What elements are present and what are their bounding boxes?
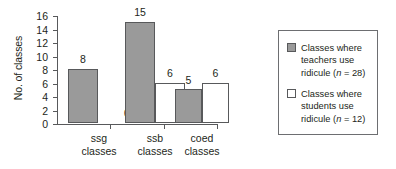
legend-label-teachers-line1: Classes where [301,43,362,53]
y-tick-12: 12 [53,43,57,44]
value-label-coed-students: 6 [213,68,219,79]
x-category-label-ssb-line2: classes [137,145,172,158]
legend-label-students: Classes where students use ridicule (n =… [301,88,365,125]
y-tick-label-10: 10 [36,51,48,62]
bar-ssb-teachers [125,22,155,123]
legend-label-students-line3-post: = 12) [341,114,365,124]
plot-area: 0 2 4 6 8 10 12 14 16 8 [57,16,218,124]
y-tick-label-8: 8 [42,65,48,76]
value-label-coed-teachers: 5 [186,75,192,86]
x-category-label-ssb: ssb classes [137,132,172,158]
legend-label-teachers-line3-pre: ridicule ( [301,68,336,78]
y-tick-16: 16 [53,16,57,17]
y-tick-label-6: 6 [42,78,48,89]
y-tick-label-16: 16 [36,11,48,22]
y-tick-14: 14 [53,30,57,31]
y-tick-label-4: 4 [42,92,48,103]
legend-swatch-students-icon [287,89,296,98]
bar-ssg-teachers [68,69,98,123]
legend-item-students: Classes where students use ridicule (n =… [287,88,375,125]
value-label-ssb-teachers: 15 [134,7,146,18]
y-tick-label-14: 14 [36,24,48,35]
legend: Classes where teachers use ridicule (n =… [278,30,378,135]
legend-label-students-line1: Classes where [301,89,362,99]
y-tick-8: 8 [53,70,57,71]
y-tick-2: 2 [53,111,57,112]
legend-label-students-line2: students use [301,101,354,111]
bar-chart-figure: No. of classes 0 2 4 6 8 10 12 14 16 [0,0,396,169]
x-category-label-ssb-line1: ssb [137,132,172,145]
y-axis-title: No. of classes [12,13,24,123]
x-category-label-coed-line2: classes [184,145,219,158]
y-tick-4: 4 [53,97,57,98]
legend-label-teachers-line2: teachers use [301,55,354,65]
value-label-ssg-teachers: 8 [80,54,86,65]
x-category-label-coed: coed classes [184,132,219,158]
y-tick-label-12: 12 [36,38,48,49]
value-label-ssb-students: 6 [167,68,173,79]
legend-item-teachers: Classes where teachers use ridicule (n =… [287,42,375,79]
bar-coed-teachers [175,89,202,123]
legend-label-students-line3-pre: ridicule ( [301,114,336,124]
y-tick-0: 0 [53,124,57,125]
x-category-label-ssg-line2: classes [81,145,116,158]
y-tick-6: 6 [53,84,57,85]
legend-label-teachers: Classes where teachers use ridicule (n =… [301,42,365,79]
x-axis-line [57,124,218,125]
legend-swatch-teachers-icon [287,43,296,52]
y-tick-label-2: 2 [42,105,48,116]
x-category-label-ssg: ssg classes [81,132,116,158]
x-category-label-ssg-line1: ssg [81,132,116,145]
y-tick-10: 10 [53,57,57,58]
x-group-tick-2 [164,125,165,129]
y-tick-label-0: 0 [42,119,48,130]
legend-label-teachers-line3-post: = 28) [341,68,365,78]
x-group-tick-1 [110,125,111,129]
x-group-tick-3 [217,125,218,129]
y-axis-line [57,16,58,125]
x-category-label-coed-line1: coed [184,132,219,145]
bar-coed-students [202,83,229,124]
